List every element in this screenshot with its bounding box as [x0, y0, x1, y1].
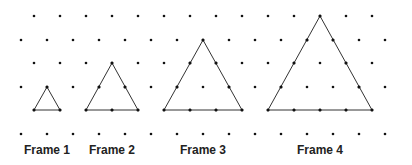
triangle-point	[293, 109, 296, 112]
frame-1-triangle	[34, 87, 60, 110]
grid-dot	[254, 39, 257, 42]
grid-dot	[241, 15, 244, 18]
grid-dot	[163, 15, 166, 18]
grid-dot	[85, 15, 88, 18]
grid-dot	[72, 133, 75, 136]
triangle-point	[124, 86, 127, 89]
grid-dot	[163, 62, 166, 65]
grid-dot	[33, 62, 36, 65]
grid-dot	[332, 133, 335, 136]
grid-dot	[293, 15, 296, 18]
grid-dot	[384, 86, 387, 89]
grid-dot	[150, 86, 153, 89]
grid-dot	[306, 86, 309, 89]
triangle-point	[345, 62, 348, 65]
grid-dot	[150, 133, 153, 136]
dot-grid-canvas	[0, 0, 412, 165]
grid-dot	[111, 15, 114, 18]
grid-dot	[280, 133, 283, 136]
grid-dot	[124, 133, 127, 136]
grid-dot	[358, 39, 361, 42]
frame-2-label: Frame 2	[89, 143, 135, 157]
triangle-point	[215, 109, 218, 112]
triangle-point	[293, 62, 296, 65]
grid-dot	[59, 15, 62, 18]
triangle-point	[59, 109, 62, 112]
triangle-point	[137, 109, 140, 112]
triangle-point	[163, 109, 166, 112]
grid-dot	[306, 133, 309, 136]
triangle-point	[267, 109, 270, 112]
grid-dot	[176, 133, 179, 136]
triangle-point	[33, 109, 36, 112]
frame-3-label: Frame 3	[180, 143, 226, 157]
grid-dot	[20, 133, 23, 136]
grid-dot	[176, 39, 179, 42]
grid-dot	[228, 133, 231, 136]
grid-dot	[150, 39, 153, 42]
triangle-point	[319, 109, 322, 112]
grid-dot	[345, 15, 348, 18]
triangle-point	[306, 39, 309, 42]
triangle-point	[332, 39, 335, 42]
grid-dot	[124, 39, 127, 42]
frame-3-triangle	[164, 40, 242, 110]
triangle-point	[371, 109, 374, 112]
triangle-point	[215, 62, 218, 65]
grid-dot	[319, 62, 322, 65]
grid-dot	[72, 39, 75, 42]
grid-dot	[59, 62, 62, 65]
triangle-point	[189, 62, 192, 65]
triangle-point	[98, 86, 101, 89]
grid-dot	[384, 39, 387, 42]
triangle-point	[176, 86, 179, 89]
grid-dot	[358, 133, 361, 136]
grid-dot	[98, 39, 101, 42]
grid-dot	[267, 62, 270, 65]
grid-dot	[241, 62, 244, 65]
grid-dot	[215, 15, 218, 18]
triangle-point	[358, 86, 361, 89]
grid-dot	[202, 86, 205, 89]
grid-dot	[85, 62, 88, 65]
frame-4-label: Frame 4	[297, 143, 343, 157]
grid-dot	[33, 15, 36, 18]
grid-dot	[384, 133, 387, 136]
triangle-point	[111, 62, 114, 65]
triangle-point	[345, 109, 348, 112]
grid-dot	[20, 39, 23, 42]
triangle-point	[46, 86, 49, 89]
triangle-point	[319, 15, 322, 18]
grid-dot	[72, 86, 75, 89]
frame-2-triangle	[86, 63, 138, 110]
grid-dot	[137, 62, 140, 65]
triangle-pattern-diagram: Frame 1 Frame 2 Frame 3 Frame 4	[0, 0, 412, 165]
frame-1-label: Frame 1	[24, 143, 70, 157]
grid-dot	[267, 15, 270, 18]
grid-dot	[254, 86, 257, 89]
grid-dot	[202, 133, 205, 136]
grid-dot	[20, 86, 23, 89]
triangle-point	[85, 109, 88, 112]
grid-dot	[280, 39, 283, 42]
grid-dot	[332, 86, 335, 89]
triangle-point	[111, 109, 114, 112]
grid-dot	[137, 15, 140, 18]
grid-dot	[46, 39, 49, 42]
triangle-point	[241, 109, 244, 112]
triangle-point	[228, 86, 231, 89]
triangle-point	[202, 39, 205, 42]
grid-dot	[254, 133, 257, 136]
grid-dot	[98, 133, 101, 136]
grid-dot	[371, 62, 374, 65]
triangle-point	[280, 86, 283, 89]
grid-dot	[228, 39, 231, 42]
grid-dot	[46, 133, 49, 136]
triangle-point	[189, 109, 192, 112]
grid-dot	[371, 15, 374, 18]
grid-dot	[189, 15, 192, 18]
